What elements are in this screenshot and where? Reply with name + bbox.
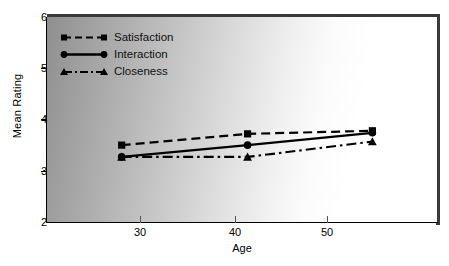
x-axis-title: Age: [47, 242, 437, 254]
y-tick-2: 2: [0, 217, 47, 228]
x-tick-label-40: 40: [215, 226, 255, 238]
legend-item-satisfaction: Satisfaction: [60, 30, 210, 45]
x-axis-line: [46, 222, 438, 223]
chart-legend: Satisfaction Interaction Closeness: [60, 30, 210, 81]
y-tick-label-5: 5: [23, 63, 47, 74]
y-tick-3: 3: [0, 166, 47, 177]
x-tick-mark-50: [327, 216, 328, 223]
legend-label-closeness: Closeness: [114, 65, 168, 78]
y-tick-4: 4: [0, 114, 47, 125]
x-tick-label-50: 50: [307, 226, 347, 238]
legend-line-sample-circle-solid: [60, 47, 108, 62]
legend-label-satisfaction: Satisfaction: [114, 31, 173, 44]
y-axis-title: Mean Rating: [11, 46, 23, 166]
y-tick-label-2: 2: [23, 217, 47, 228]
legend-item-interaction: Interaction: [60, 47, 210, 62]
y-tick-label-4: 4: [23, 114, 47, 125]
legend-line-sample-square-dashed: [60, 30, 108, 45]
y-tick-label-6: 6: [23, 12, 47, 23]
y-tick-6: 6: [0, 12, 47, 23]
chart-figure: 6 5 4 3 2 30 40 50 Mean Rating Age Satis…: [0, 0, 449, 266]
legend-line-sample-triangle-dashdot: [60, 64, 108, 79]
legend-item-closeness: Closeness: [60, 64, 210, 79]
x-tick-mark-30: [140, 216, 141, 223]
y-tick-label-3: 3: [23, 166, 47, 177]
x-tick-label-30: 30: [120, 226, 160, 238]
x-tick-mark-40: [235, 216, 236, 223]
y-tick-5: 5: [0, 63, 47, 74]
legend-label-interaction: Interaction: [114, 48, 168, 61]
